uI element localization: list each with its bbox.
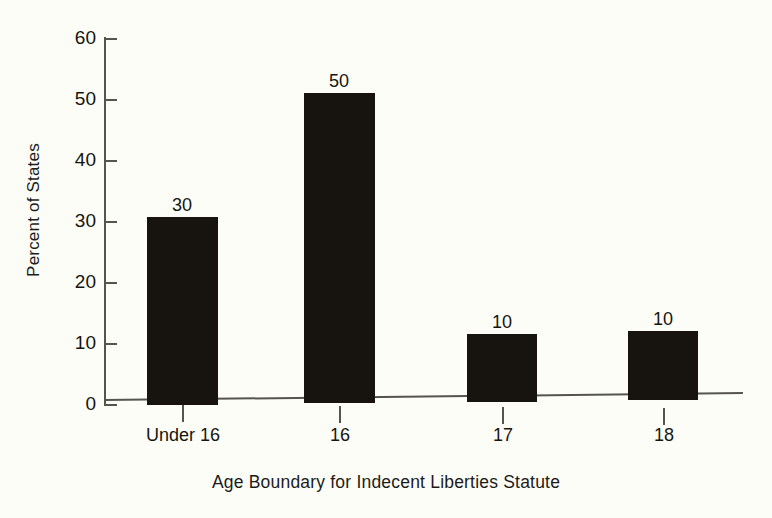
y-tick-mark xyxy=(106,282,117,284)
y-tick-mark xyxy=(106,160,117,162)
y-tick-mark xyxy=(106,404,117,406)
y-tick-mark xyxy=(106,221,117,223)
bar-value-label: 30 xyxy=(137,196,227,214)
bar-under-16 xyxy=(147,217,218,405)
x-tick-label-under-16: Under 16 xyxy=(103,425,263,446)
x-axis-title: Age Boundary for Indecent Liberties Stat… xyxy=(0,472,772,493)
x-tick-mark xyxy=(339,406,341,423)
bar-16 xyxy=(304,93,375,403)
bar-value-label: 50 xyxy=(294,72,384,90)
y-tick-label: 0 xyxy=(52,394,96,413)
y-tick-label: 60 xyxy=(52,28,96,47)
y-tick-mark xyxy=(106,99,117,101)
x-tick-label-16: 16 xyxy=(260,425,420,446)
x-tick-label-17: 17 xyxy=(423,425,583,446)
bar-value-label: 10 xyxy=(457,313,547,331)
x-tick-mark xyxy=(502,407,504,424)
x-tick-mark xyxy=(663,408,665,425)
y-axis-title: Percent of States xyxy=(24,80,44,340)
bar-chart-figure: Percent of States 0 10 20 30 40 50 60 30… xyxy=(0,0,772,518)
x-tick-mark xyxy=(182,405,184,422)
y-tick-label: 10 xyxy=(52,333,96,352)
bar-18 xyxy=(628,331,698,400)
bar-17 xyxy=(467,334,537,402)
y-tick-label: 40 xyxy=(52,150,96,169)
y-tick-mark xyxy=(106,343,117,345)
y-tick-label: 50 xyxy=(52,89,96,108)
y-tick-label: 20 xyxy=(52,272,96,291)
y-tick-label: 30 xyxy=(52,211,96,230)
x-tick-label-18: 18 xyxy=(584,425,744,446)
bar-value-label: 10 xyxy=(618,310,708,328)
y-tick-mark xyxy=(106,38,117,40)
